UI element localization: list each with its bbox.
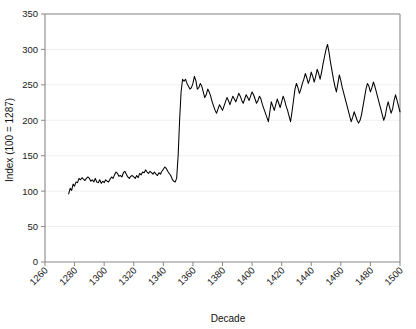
y-tick-label: 350: [22, 8, 38, 19]
x-tick-label: 1260: [27, 265, 50, 288]
x-tick-label: 1500: [382, 265, 405, 288]
x-tick-label: 1440: [293, 265, 316, 288]
y-axis-tick-labels: 050100150200250300350: [22, 8, 38, 267]
x-tick-label: 1400: [234, 265, 257, 288]
y-tick-label: 300: [22, 44, 38, 55]
x-tick-label: 1320: [116, 265, 139, 288]
y-tick-label: 250: [22, 79, 38, 90]
x-tick-label: 1280: [57, 265, 80, 288]
y-tick-label: 150: [22, 150, 38, 161]
line-chart: 050100150200250300350 126012801300132013…: [0, 0, 416, 329]
x-tick-label: 1420: [264, 265, 287, 288]
x-tick-label: 1380: [205, 265, 228, 288]
x-axis-title: Decade: [211, 313, 246, 324]
x-tick-label: 1480: [353, 265, 376, 288]
chart-container: 050100150200250300350 126012801300132013…: [0, 0, 416, 329]
y-axis-ticks: [41, 14, 45, 262]
y-tick-label: 100: [22, 186, 38, 197]
x-tick-label: 1300: [86, 265, 109, 288]
plot-frame: [45, 14, 400, 262]
y-tick-label: 50: [27, 221, 38, 232]
x-axis-ticks: [45, 262, 400, 266]
x-tick-label: 1340: [146, 265, 169, 288]
x-tick-label: 1360: [175, 265, 198, 288]
x-axis-tick-labels: 1260128013001320134013601380140014201440…: [27, 265, 405, 288]
data-series-line: [69, 44, 400, 194]
y-tick-label: 200: [22, 115, 38, 126]
y-tick-label: 0: [33, 256, 38, 267]
y-axis-title: Index (100 = 1287): [4, 98, 15, 182]
gridlines-group: [45, 14, 400, 227]
x-tick-label: 1460: [323, 265, 346, 288]
